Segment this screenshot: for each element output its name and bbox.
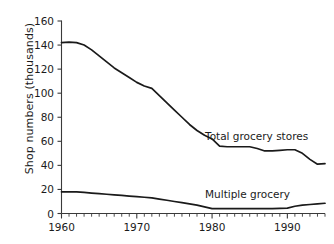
series-label-multiple-grocery: Multiple grocery (205, 188, 290, 200)
line-chart: Shop numbers (thousands) 020406080100120… (0, 0, 334, 244)
plot-area (0, 0, 334, 244)
series-label-total-grocery-stores: Total grocery stores (205, 130, 308, 142)
series-line-total-grocery-stores (62, 42, 326, 164)
